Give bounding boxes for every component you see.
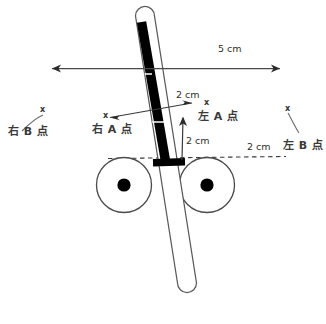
label-2cm-vertical: 2 cm <box>186 136 210 146</box>
label-left-b-point: 左 B 点 <box>283 140 324 151</box>
label-left-a-point: 左 A 点 <box>198 111 239 122</box>
pole-base-plate <box>153 158 185 166</box>
left-wheel <box>97 158 152 213</box>
label-5cm: 5 cm <box>218 44 242 54</box>
label-right-b-point: 右 B 点 <box>8 126 49 137</box>
marker-x-left-b: x <box>285 105 290 113</box>
marker-x-left-a: x <box>204 99 209 107</box>
dimension-arrow-5cm <box>52 65 280 73</box>
diagram-canvas: 5 cm 2 cm 2 cm 2 cm x x x x 右 B 点 右 A 点 … <box>0 0 326 324</box>
label-2cm-upper: 2 cm <box>176 90 200 100</box>
ground-dashed-line <box>108 157 286 159</box>
right-wheel <box>180 158 235 213</box>
leader-left-b <box>288 113 299 133</box>
label-right-a-point: 右 A 点 <box>92 124 133 135</box>
marker-x-right-b: x <box>40 106 45 114</box>
label-2cm-right: 2 cm <box>247 142 271 152</box>
diagram-svg <box>0 0 326 324</box>
marker-x-right-a: x <box>103 112 108 120</box>
